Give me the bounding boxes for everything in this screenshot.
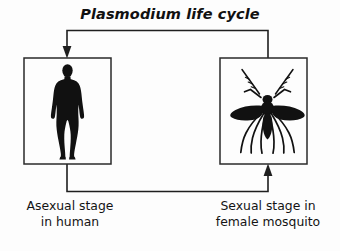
caption-mosquito-line2: female mosquito [188,214,340,230]
caption-mosquito: Sexual stage in female mosquito [188,198,340,229]
node-human [24,58,111,164]
caption-human-line1: Asexual stage [0,198,145,214]
caption-human-line2: in human [0,214,145,230]
node-mosquito [220,58,307,164]
caption-human: Asexual stage in human [0,198,145,229]
arrowhead-up-icon [264,164,273,177]
arrow-mosquito-to-human [63,31,268,59]
plasmodium-life-cycle-figure: Plasmodium life cycle [0,0,340,251]
arrowhead-down-icon [63,46,72,59]
arrow-human-to-mosquito [67,164,272,192]
caption-mosquito-line1: Sexual stage in [188,198,340,214]
